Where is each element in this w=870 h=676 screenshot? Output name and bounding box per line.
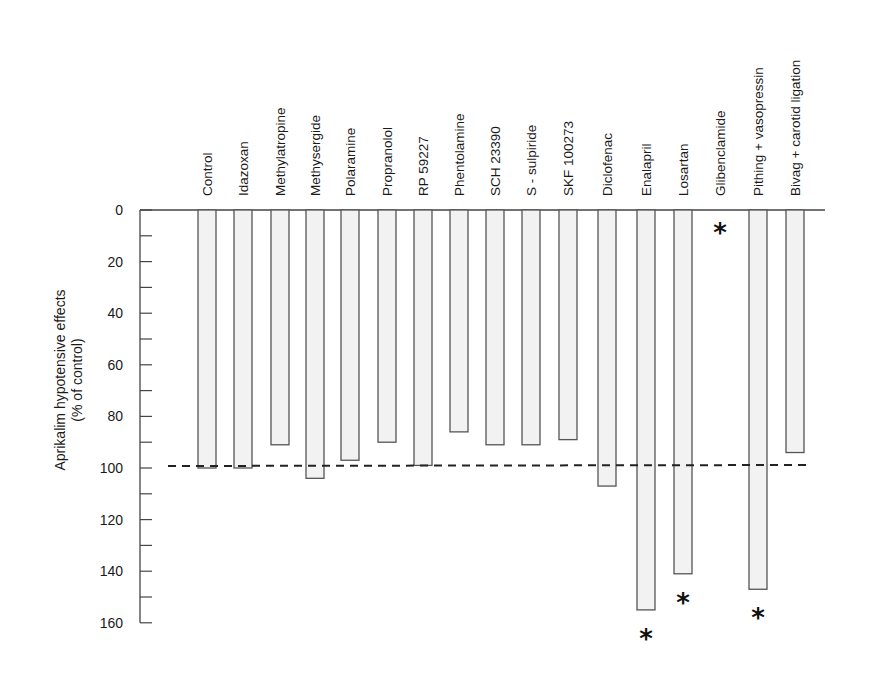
category-label: S - sulpiride [524,125,539,196]
y-tick-label: 40 [107,305,123,321]
category-label: Losartan [676,143,691,196]
bar [341,210,359,460]
bar [378,210,396,442]
y-tick-label: 160 [100,615,124,631]
significance-asterisk: * [676,588,690,618]
significance-asterisk: * [713,218,727,248]
bar [486,210,504,445]
category-label: Phentolamine [452,113,467,196]
category-label: Control [200,152,215,196]
category-label: Enalapril [639,143,654,196]
category-label: Bivag + carotid ligation [788,60,803,196]
y-tick-label: 20 [107,254,123,270]
y-axis-label: Aprikalim hypotensive effects(% of contr… [52,289,85,470]
category-label: SCH 23390 [488,126,503,196]
category-label: Glibenclamide [713,110,728,196]
bar [306,210,324,478]
bar [522,210,540,445]
bar [598,210,616,486]
y-tick-label: 60 [107,357,123,373]
y-tick-label: 120 [100,512,124,528]
y-tick-label: 0 [115,202,123,218]
bar [674,210,692,574]
y-axis-subtitle: (% of control) [69,338,85,421]
y-tick-label: 140 [100,563,124,579]
y-tick-label: 80 [107,408,123,424]
bar [749,210,767,589]
category-label: Methylatropine [273,107,288,196]
bar [637,210,655,610]
category-label: Methysergide [308,115,323,196]
category-label: RP 59227 [416,136,431,196]
category-label: Diclofenac [600,133,615,196]
reference-line [168,465,806,466]
bar [198,210,216,468]
category-label: Propranolol [380,127,395,196]
significance-markers: **** [639,218,765,654]
bar [786,210,804,453]
category-label: SKF 100273 [561,121,576,196]
significance-asterisk: * [751,603,765,633]
reference-line-100 [168,465,806,466]
bars [198,210,804,610]
bar [559,210,577,440]
y-tick-label: 100 [100,460,124,476]
bar [450,210,468,432]
bar [414,210,432,465]
significance-asterisk: * [639,624,653,654]
bar [271,210,289,445]
category-label: Idazoxan [236,141,251,196]
category-label: Pithing + vasopressin [751,67,766,196]
y-axis-title: Aprikalim hypotensive effects [52,289,68,470]
category-labels: ControlIdazoxanMethylatropineMethysergid… [200,60,803,196]
bar [234,210,252,468]
bar-chart: 020406080100120140160 Aprikalim hypotens… [0,0,870,676]
category-label: Polaramine [343,128,358,196]
